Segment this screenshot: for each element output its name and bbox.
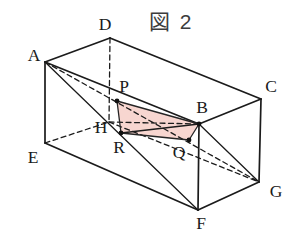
vertex-label-Q: Q xyxy=(173,142,186,162)
edge-DC xyxy=(110,38,261,99)
vertex-label-C: C xyxy=(265,76,277,96)
vertex-label-R: R xyxy=(113,137,125,157)
edge-BC xyxy=(199,99,261,124)
point-dot-R xyxy=(119,131,124,136)
point-dot-Q xyxy=(187,138,192,143)
hidden-diagonal-AG xyxy=(45,62,259,182)
vertex-label-G: G xyxy=(270,181,283,201)
vertex-label-F: F xyxy=(196,213,206,233)
edge-CG xyxy=(259,99,261,182)
vertex-label-H: H xyxy=(95,117,108,137)
figure-title: 図 2 xyxy=(149,5,194,35)
vertex-label-A: A xyxy=(28,45,41,65)
vertex-label-B: B xyxy=(196,97,208,117)
edge-GF xyxy=(198,182,259,210)
edge-BF xyxy=(198,124,199,210)
geometry-figure-svg: ADCBEHPRQFG xyxy=(0,0,290,236)
vertex-label-P: P xyxy=(119,76,129,96)
point-dot-P xyxy=(115,99,120,104)
edge-AD xyxy=(45,38,110,62)
figure-canvas: 図 2 ADCBEHPRQFG xyxy=(0,0,290,236)
point-dot-B xyxy=(197,122,202,127)
vertex-label-E: E xyxy=(28,147,39,167)
hidden-edge-DH xyxy=(109,38,110,122)
vertex-label-D: D xyxy=(99,14,112,34)
